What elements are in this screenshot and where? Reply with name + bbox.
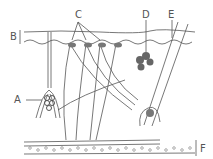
epidermis-base [24, 40, 192, 44]
epidermis-surface [24, 30, 195, 33]
label-f: F [200, 144, 206, 154]
label-c: C [75, 10, 82, 20]
skin-cross-section-diagram: B A C D E F [0, 0, 213, 159]
fascia-line [24, 153, 195, 154]
label-b: B [10, 32, 17, 42]
diagram-drawing [0, 0, 213, 159]
nerve-bundle-upper [24, 140, 160, 146]
label-d: D [142, 10, 150, 20]
label-a: A [14, 95, 21, 105]
label-e: E [168, 10, 174, 20]
receptor-fibers [58, 44, 138, 140]
